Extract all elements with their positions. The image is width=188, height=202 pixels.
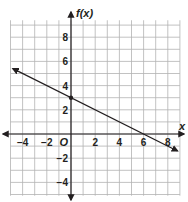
x-tick-label: 2 (92, 137, 98, 148)
origin-label: O (59, 136, 68, 148)
x-tick-label: −2 (41, 137, 53, 148)
y-tick-label: 4 (62, 81, 68, 92)
x-axis-label: x (178, 120, 186, 132)
y-tick-label: −2 (57, 153, 69, 164)
x-tick-label: 4 (117, 137, 123, 148)
y-tick-label: −4 (57, 177, 69, 188)
y-tick-label: 8 (62, 32, 68, 43)
y-tick-label: 6 (62, 56, 68, 67)
coordinate-plane: −4−224688642−2−4Oxf(x) (0, 0, 188, 202)
y-axis-label: f(x) (76, 7, 93, 19)
grid (11, 20, 180, 195)
x-tick-label: −4 (17, 137, 29, 148)
y-tick-label: 2 (62, 105, 68, 116)
y-intercept-point (69, 96, 73, 100)
x-tick-label: 6 (141, 137, 147, 148)
